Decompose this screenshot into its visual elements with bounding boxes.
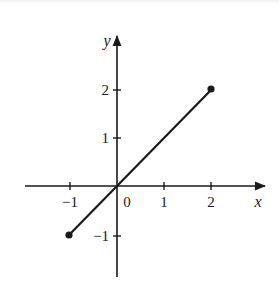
endpoint-marker-end	[207, 85, 214, 92]
y-tick-label-2: 2	[102, 82, 110, 98]
endpoint-marker-start	[65, 231, 72, 238]
x-tick-label-1: 1	[160, 194, 168, 210]
data-line	[70, 90, 211, 234]
y-tick-label-1: 1	[102, 130, 110, 146]
x-axis-label: x	[253, 193, 261, 210]
y-tick-label-neg1: −1	[93, 228, 109, 244]
line-graph: −1 0 1 2 2 1 −1 x y	[0, 0, 279, 284]
x-tick-label-2: 2	[207, 194, 215, 210]
x-tick-label-neg1: −1	[62, 194, 78, 210]
x-tick-label-0: 0	[123, 194, 131, 210]
y-axis-label: y	[101, 32, 111, 50]
